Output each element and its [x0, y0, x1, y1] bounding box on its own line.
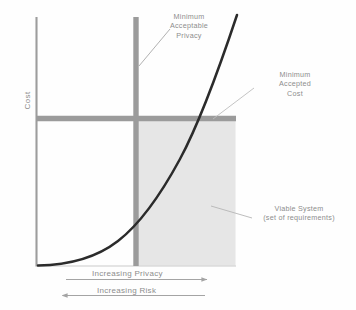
annotation-cost-line3: Cost: [252, 89, 338, 98]
leader-line-cost: [213, 88, 254, 119]
x-axis-label-increasing-risk: Increasing Risk: [97, 286, 156, 295]
annotation-privacy-line2: Acceptable: [150, 21, 228, 30]
annotation-viable-line2: (set of requirements): [244, 213, 354, 222]
annotation-cost-line2: Accepted: [252, 79, 338, 88]
privacy-cost-diagram: Cost Minimum Acceptable Privacy Minimum …: [0, 0, 356, 310]
annotation-privacy-line3: Privacy: [150, 31, 228, 40]
annotation-minimum-accepted-cost: Minimum Accepted Cost: [252, 70, 338, 98]
x-axis-label-increasing-privacy: Increasing Privacy: [92, 269, 163, 278]
annotation-viable-line1: Viable System: [244, 204, 354, 213]
viable-system-region: [135, 118, 236, 266]
annotation-minimum-acceptable-privacy: Minimum Acceptable Privacy: [150, 12, 228, 40]
diagram-canvas: [0, 0, 356, 310]
annotation-cost-line1: Minimum: [252, 70, 338, 79]
annotation-privacy-line1: Minimum: [150, 12, 228, 21]
y-axis-label: Cost: [23, 73, 32, 129]
annotation-viable-system: Viable System (set of requirements): [244, 204, 354, 223]
